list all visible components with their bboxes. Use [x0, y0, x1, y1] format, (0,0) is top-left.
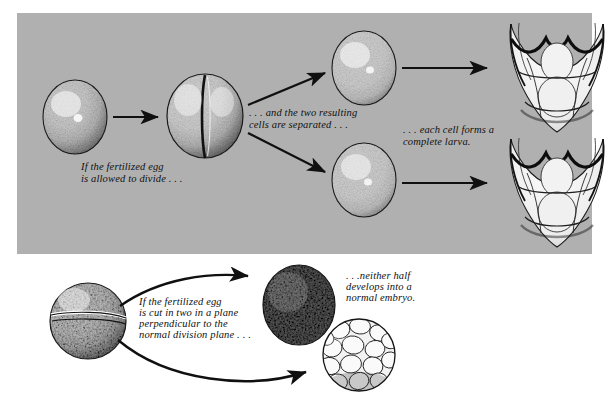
caption-if-fertilized-egg-divides: If the fertilized egg is allowed to divi… [81, 161, 231, 184]
equatorially-cut-egg [50, 283, 126, 359]
embryology-figure: If the fertilized egg is allowed to divi… [0, 0, 609, 403]
caption-egg-cut-perpendicular: If the fertilized egg is cut in two in a… [139, 296, 291, 340]
arrow-cut-egg-to-morula [118, 340, 306, 381]
caption-each-cell-forms-larva: . . . each cell forms a complete larva. [403, 124, 523, 147]
abnormal-morula [310, 303, 401, 400]
caption-neither-half-normal-embryo: . . .neither half develops into a normal… [346, 270, 456, 303]
caption-two-cells-separated: . . . and the two resulting cells are se… [249, 107, 401, 130]
